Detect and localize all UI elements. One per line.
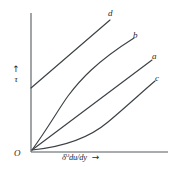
curve-c-dilatant: [32, 81, 155, 150]
x-axis-fraction: du/dy: [69, 152, 87, 162]
x-axis-arrow-icon: →: [92, 152, 99, 162]
curve-label-d: d: [108, 9, 113, 18]
curve-label-a: a: [152, 52, 157, 61]
curve-a-newtonian: [32, 60, 152, 150]
curve-label-b: b: [133, 31, 138, 40]
chart-canvas: [0, 0, 171, 173]
y-axis-symbol: τ: [9, 74, 23, 85]
curve-label-c: c: [155, 74, 159, 83]
curve-d-bingham-plastic: [31, 20, 110, 88]
y-axis-arrow-icon: ↑: [9, 64, 23, 74]
curve-b-pseudoplastic: [32, 38, 134, 150]
rheology-chart: a b c d O ↑ τ δᵁdu/dy→: [0, 0, 171, 173]
origin-label: O: [14, 149, 21, 158]
x-axis-label: δᵁdu/dy→: [62, 152, 99, 162]
y-axis-label: ↑ τ: [9, 64, 23, 85]
